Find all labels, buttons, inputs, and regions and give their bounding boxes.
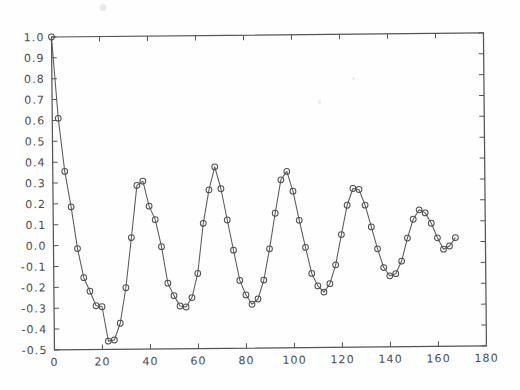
data-line — [51, 33, 456, 341]
y-tick-label: -0.3 — [21, 302, 47, 315]
y-tick-label: -0.4 — [21, 323, 47, 336]
x-tick-label: 160 — [426, 352, 450, 365]
y-tick-label: 0.4 — [25, 156, 46, 169]
x-tick-label: 100 — [282, 354, 306, 367]
x-tick-label: 120 — [330, 353, 354, 366]
data-markers — [49, 30, 460, 344]
chart-plot: 020406080100120140160180 -0.5-0.4-0.3-0.… — [0, 0, 520, 390]
x-tick-label: 60 — [190, 355, 206, 368]
scan-artifact-a — [352, 77, 355, 80]
scanned-figure: 020406080100120140160180 -0.5-0.4-0.3-0.… — [0, 0, 520, 390]
y-tick-label: 0.3 — [25, 177, 46, 190]
y-tick-label: 0.5 — [25, 135, 46, 148]
x-axis-tick-marks — [51, 33, 486, 350]
scan-artifact-b — [318, 100, 321, 104]
x-tick-label: 40 — [142, 355, 158, 368]
x-tick-label: 180 — [474, 352, 498, 365]
y-axis-tick-labels: -0.5-0.4-0.3-0.2-0.10.00.10.20.30.40.50.… — [19, 31, 48, 357]
y-tick-label: 0.7 — [24, 94, 45, 107]
y-axis-tick-marks — [51, 33, 486, 350]
y-tick-label: -0.2 — [21, 281, 47, 294]
x-tick-label: 0 — [50, 356, 58, 369]
y-tick-label: 0.0 — [26, 240, 47, 253]
x-axis-tick-labels: 020406080100120140160180 — [50, 352, 498, 369]
x-tick-label: 80 — [238, 354, 254, 367]
y-tick-label: 0.1 — [25, 219, 46, 232]
plot-frame — [51, 33, 486, 350]
scan-artifact-top — [100, 4, 106, 11]
y-tick-label: 0.8 — [24, 73, 45, 86]
y-tick-label: 0.2 — [25, 198, 46, 211]
y-tick-label: -0.5 — [22, 344, 48, 357]
x-tick-label: 20 — [94, 355, 110, 368]
y-tick-label: -0.1 — [21, 261, 47, 274]
y-tick-label: 0.6 — [24, 115, 45, 128]
y-tick-label: 0.9 — [24, 52, 45, 65]
y-tick-label: 1.0 — [24, 31, 45, 44]
x-tick-label: 140 — [378, 353, 402, 366]
